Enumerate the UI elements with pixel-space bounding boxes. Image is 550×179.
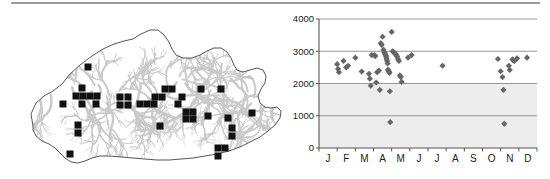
map-record-marker — [159, 94, 166, 101]
map-record-marker — [87, 93, 94, 100]
map-record-marker — [215, 145, 222, 152]
x-axis-tick-label: J — [416, 153, 421, 164]
map-record-marker — [229, 133, 236, 140]
x-axis-tick-label: J — [326, 153, 331, 164]
map-record-marker — [93, 101, 100, 108]
map-record-marker — [94, 93, 101, 100]
map-record-marker — [205, 113, 212, 120]
map-record-marker — [73, 93, 80, 100]
map-record-marker — [225, 115, 232, 122]
map-record-marker — [222, 145, 229, 152]
map-record-marker — [125, 102, 132, 109]
y-axis-tick-labels: 01000200030004000 — [293, 13, 314, 153]
map-record-marker — [125, 94, 132, 101]
map-record-marker — [162, 86, 169, 93]
x-axis-tick-label: O — [488, 153, 496, 164]
map-record-marker — [183, 116, 190, 123]
map-record-marker — [117, 94, 124, 101]
map-record-marker — [80, 93, 87, 100]
scatter-chart-svg: 01000200030004000 JFMAMJJASOND — [292, 0, 550, 179]
map-record-marker — [60, 101, 67, 108]
map-relief-shading — [5, 30, 292, 169]
y-axis-tick-label: 4000 — [293, 13, 314, 24]
x-axis-tick-label: A — [452, 153, 459, 164]
map-record-marker — [198, 86, 205, 93]
map-record-marker — [152, 94, 159, 101]
x-axis-tick-label: A — [379, 153, 386, 164]
x-axis-tick-label: D — [524, 153, 531, 164]
map-record-marker — [249, 110, 256, 117]
map-record-marker — [137, 101, 144, 108]
map-record-marker — [190, 109, 197, 116]
map-record-marker — [79, 101, 86, 108]
distribution-map-svg — [0, 8, 292, 179]
map-record-marker — [85, 64, 92, 71]
y-axis-tick-label: 3000 — [293, 46, 314, 57]
map-record-marker — [218, 86, 225, 93]
x-axis-tick-label: J — [435, 153, 440, 164]
x-axis-tick-labels: JFMAMJJASOND — [326, 153, 532, 164]
map-record-marker — [157, 123, 164, 130]
map-record-marker — [190, 116, 197, 123]
y-axis-tick-label: 0 — [309, 142, 314, 153]
x-axis-tick-label: M — [397, 153, 405, 164]
y-axis-tick-label: 2000 — [293, 78, 314, 89]
x-axis-tick-label: M — [360, 153, 368, 164]
map-record-marker — [215, 153, 222, 160]
map-record-marker — [179, 94, 186, 101]
map-record-marker — [67, 151, 74, 158]
x-axis-tick-label: N — [506, 153, 513, 164]
map-record-marker — [175, 101, 182, 108]
map-record-marker — [79, 85, 86, 92]
altitude-month-scatter-panel: 01000200030004000 JFMAMJJASOND — [292, 0, 550, 179]
figure-container: 01000200030004000 JFMAMJJASOND — [0, 0, 550, 179]
x-axis-tick-label: S — [470, 153, 477, 164]
distribution-map-panel — [0, 8, 292, 179]
y-axis-tick-label: 1000 — [293, 110, 314, 121]
map-record-marker — [75, 122, 82, 129]
map-record-marker — [169, 86, 176, 93]
map-record-marker — [117, 102, 124, 109]
x-axis-tick-label: F — [343, 153, 349, 164]
map-record-marker — [75, 130, 82, 137]
map-record-marker — [151, 101, 158, 108]
map-record-marker — [183, 109, 190, 116]
map-record-marker — [144, 101, 151, 108]
map-record-marker — [229, 125, 236, 132]
